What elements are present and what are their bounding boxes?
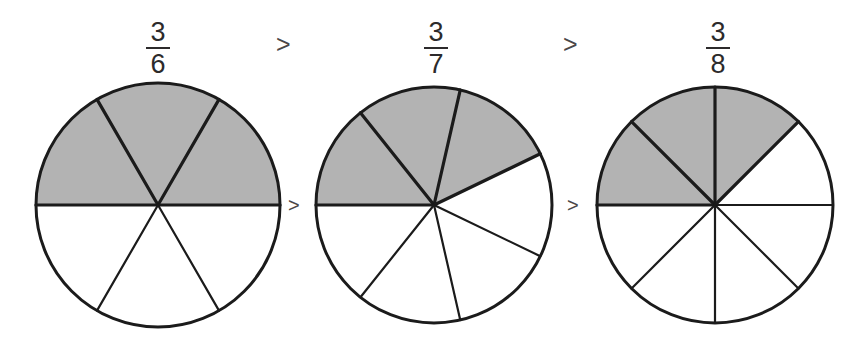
greater-than-top-1: > (276, 32, 291, 57)
figure-canvas: 3 6 > 3 7 > 3 8 > > (0, 0, 864, 345)
fraction-numerator: 3 (710, 18, 725, 46)
fraction-denominator: 8 (710, 50, 725, 78)
greater-than-middle-2: > (567, 195, 579, 215)
pie-chart-three-eighths (591, 81, 839, 329)
fraction-denominator: 7 (428, 50, 443, 78)
pie-chart-three-sevenths (310, 81, 558, 329)
fraction-label-three-sixths: 3 6 (128, 18, 188, 78)
fraction-denominator: 6 (150, 50, 165, 78)
fraction-numerator: 3 (150, 18, 165, 46)
greater-than-top-2: > (563, 32, 578, 57)
fraction-label-three-sevenths: 3 7 (406, 18, 466, 78)
fraction-label-three-eighths: 3 8 (688, 18, 748, 78)
fraction-numerator: 3 (428, 18, 443, 46)
pie-chart-three-sixths (30, 77, 286, 333)
greater-than-middle-1: > (288, 195, 300, 215)
